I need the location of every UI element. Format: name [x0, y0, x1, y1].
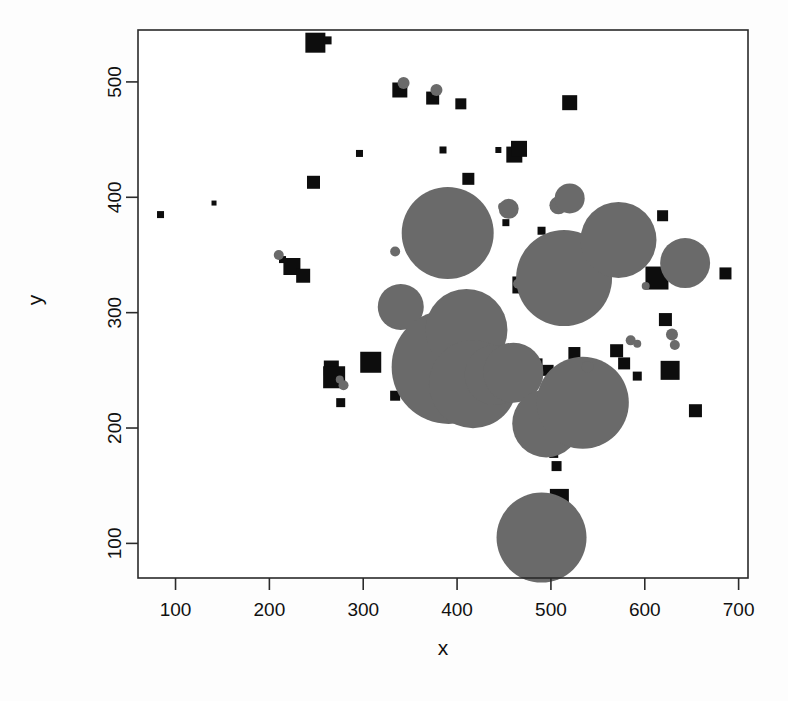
data-point-circle [390, 247, 400, 257]
data-point-square [296, 269, 310, 283]
data-point-circle [497, 493, 587, 583]
x-tick-label: 700 [723, 599, 755, 620]
data-point-circle [339, 380, 349, 390]
y-tick-label: 100 [104, 528, 125, 560]
data-point-circle [580, 202, 656, 278]
data-point-square [657, 210, 668, 221]
data-point-circle [402, 187, 494, 279]
plot-canvas: 100200300400500600700 100200300400500 x … [0, 0, 788, 701]
data-point-circle [660, 238, 710, 288]
data-point-square [659, 313, 672, 326]
data-point-square [356, 150, 363, 157]
y-tick-label: 500 [104, 66, 125, 98]
x-tick-label: 400 [441, 599, 473, 620]
x-axis-title: x [438, 636, 449, 659]
x-tick-label: 500 [535, 599, 567, 620]
data-point-circle [555, 183, 585, 213]
data-point-square [538, 227, 546, 235]
data-point-square [462, 173, 474, 185]
data-point-circle [430, 84, 442, 96]
data-point-square [719, 267, 731, 279]
data-point-square [455, 98, 466, 109]
x-tick-label: 200 [254, 599, 286, 620]
data-point-square [552, 461, 562, 471]
data-point-square [511, 141, 527, 157]
x-tick-label: 300 [347, 599, 379, 620]
data-point-square [336, 398, 345, 407]
data-point-square [324, 36, 332, 44]
scatter-plot-figure: 100200300400500600700 100200300400500 x … [0, 0, 788, 701]
data-point-circle [642, 282, 650, 290]
data-point-square [305, 33, 325, 53]
data-point-square [661, 361, 680, 380]
data-point-square [502, 219, 509, 226]
y-tick-label: 400 [104, 181, 125, 213]
data-point-square [689, 404, 702, 417]
data-point-square [440, 146, 447, 153]
data-point-circle [499, 199, 519, 219]
data-point-square [618, 357, 630, 369]
data-point-square [307, 176, 320, 189]
x-tick-label: 100 [160, 599, 192, 620]
y-axis-title: y [23, 294, 46, 305]
data-point-circle [633, 340, 641, 348]
y-tick-label: 200 [104, 412, 125, 444]
x-tick-label: 600 [629, 599, 661, 620]
data-point-circle [274, 250, 284, 260]
data-point-square [495, 147, 501, 153]
y-tick-label: 300 [104, 297, 125, 329]
data-point-circle [666, 329, 678, 341]
data-point-square [610, 344, 623, 357]
data-point-square [633, 372, 642, 381]
data-point-circle [582, 361, 594, 373]
data-point-circle [398, 77, 410, 89]
data-point-square [360, 352, 381, 373]
data-point-square [562, 95, 577, 110]
data-point-square [157, 211, 164, 218]
data-point-circle [670, 340, 680, 350]
data-point-square [212, 201, 217, 206]
